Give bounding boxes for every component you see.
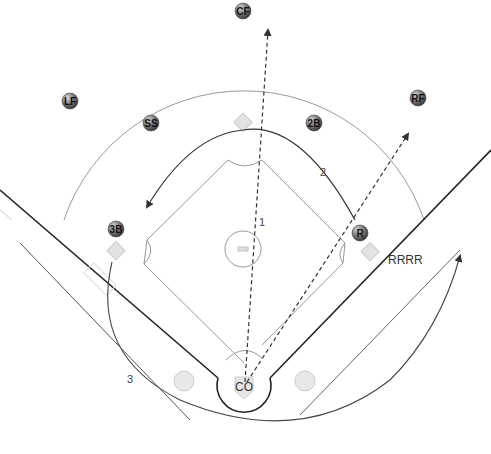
- player-2b: 2B: [306, 115, 322, 131]
- svg-text:CF: CF: [236, 6, 249, 17]
- player-lf: LF: [62, 93, 78, 109]
- home-cut: [226, 350, 262, 360]
- on-deck-circle-right: [295, 371, 315, 391]
- home-label: CO: [235, 380, 253, 394]
- ball-path-rf: [247, 134, 408, 382]
- annotation-1: 1: [259, 216, 265, 228]
- svg-text:LF: LF: [64, 96, 76, 107]
- player-cf: CF: [235, 3, 251, 19]
- player-rf: RF: [410, 90, 426, 106]
- annotation-2: 2: [320, 166, 326, 178]
- annotation-rrrr: RRRR: [388, 253, 423, 267]
- first-base: [361, 243, 379, 261]
- coach-box-left: [84, 263, 117, 296]
- svg-text:R: R: [356, 228, 364, 239]
- svg-text:RF: RF: [411, 93, 424, 104]
- pitchers-rubber: [238, 247, 248, 251]
- third-base: [107, 242, 125, 260]
- svg-text:SS: SS: [144, 118, 158, 129]
- outfield-arc: [64, 91, 424, 220]
- on-deck-circle-left: [174, 371, 194, 391]
- annotation-3: 3: [127, 373, 133, 385]
- player-r: R: [352, 225, 368, 241]
- player-3b: 3B: [108, 221, 124, 237]
- foul-line-left-outer-light: [0, 210, 12, 220]
- foul-line-left-dark: [0, 190, 218, 378]
- baseball-field-diagram: 1 2 3 RRRR CO CF LF SS 2B RF 3B R: [0, 0, 491, 454]
- ball-path-1: [245, 30, 268, 382]
- foul-line-right-outer: [300, 250, 460, 415]
- svg-text:3B: 3B: [110, 224, 123, 235]
- player-ss: SS: [143, 115, 159, 131]
- svg-text:2B: 2B: [308, 118, 321, 129]
